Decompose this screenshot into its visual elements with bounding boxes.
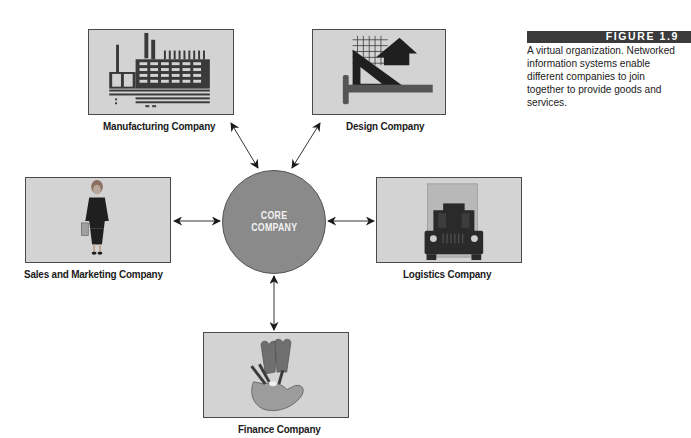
- label-logistics: Logistics Company: [403, 268, 491, 280]
- node-logistics: [376, 177, 522, 263]
- node-finance: [203, 332, 349, 418]
- arrow-core-manufacturing: [231, 123, 258, 168]
- label-sales: Sales and Marketing Company: [24, 268, 163, 280]
- factory-icon: [89, 30, 233, 114]
- arrow-core-design: [292, 123, 320, 168]
- label-design: Design Company: [346, 120, 424, 132]
- core-label-line1: CORE: [261, 210, 287, 222]
- node-design: [312, 29, 446, 115]
- label-manufacturing: Manufacturing Company: [103, 120, 215, 132]
- businesswoman-icon: [26, 178, 170, 262]
- drafting-tools-icon: [313, 30, 445, 114]
- core-company-node: CORE COMPANY: [222, 170, 326, 274]
- figure-number-bar: FIGURE 1.9: [527, 31, 691, 43]
- core-label-line2: COMPANY: [251, 222, 297, 234]
- figure-number: FIGURE 1.9: [606, 30, 679, 42]
- truck-icon: [377, 178, 521, 262]
- hand-holding-money-icon: [204, 333, 348, 417]
- label-finance: Finance Company: [238, 423, 321, 435]
- node-manufacturing: [88, 29, 234, 115]
- figure-caption: A virtual organization. Networked inform…: [527, 44, 678, 109]
- node-sales: [25, 177, 171, 263]
